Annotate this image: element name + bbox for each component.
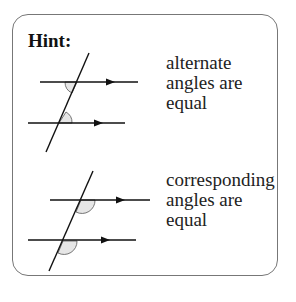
transversal-line: [46, 53, 89, 152]
arrow-icon: [116, 197, 125, 204]
arrow-icon: [106, 79, 115, 86]
alternate-angles-diagram: [28, 53, 138, 152]
angle-diagrams: [0, 0, 296, 302]
arrow-icon: [94, 120, 103, 127]
transversal-line: [49, 171, 93, 271]
arrow-icon: [101, 237, 110, 244]
corresponding-angles-diagram: [28, 171, 150, 271]
